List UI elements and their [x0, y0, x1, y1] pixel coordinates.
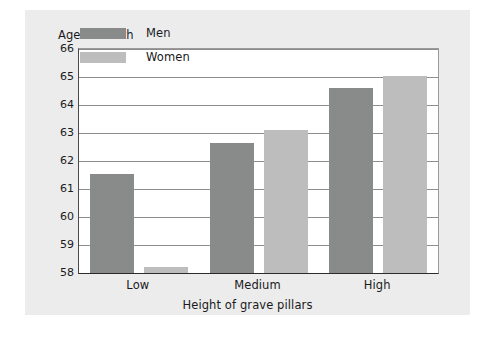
x-axis-tick-label: Medium: [234, 278, 281, 292]
y-axis-tick-label: 66: [48, 43, 74, 54]
y-axis-tick-label: 64: [48, 99, 74, 110]
legend-label-men: Men: [146, 26, 171, 40]
y-axis-tick-label: 61: [48, 183, 74, 194]
y-axis-tick-label: 59: [48, 239, 74, 250]
women-swatch-icon: [80, 52, 126, 63]
y-axis-tick-labels: 666564636261605958: [42, 48, 74, 273]
y-axis-tick-label: 63: [48, 127, 74, 138]
bar-men-low[interactable]: [90, 174, 134, 273]
bar-women-medium[interactable]: [264, 130, 308, 273]
y-axis-tick-label: 60: [48, 211, 74, 222]
x-axis-tick-label: Low: [126, 278, 149, 292]
legend-item-men[interactable]: Men: [80, 23, 190, 43]
y-axis-tick-label: 65: [48, 71, 74, 82]
legend-item-women[interactable]: Women: [80, 47, 190, 67]
y-axis-tick-label: 58: [48, 267, 74, 278]
bar-men-high[interactable]: [329, 88, 373, 273]
men-swatch-icon: [80, 28, 126, 39]
x-axis-tick-label: High: [364, 278, 391, 292]
legend-label-women: Women: [146, 50, 190, 64]
chart-figure-panel: Age at death 666564636261605958 LowMediu…: [25, 10, 470, 315]
plot-area: [78, 48, 439, 274]
x-axis-tick-labels: LowMediumHigh: [78, 278, 437, 298]
y-axis-tick-label: 62: [48, 155, 74, 166]
chart-legend: Men Women: [80, 23, 190, 71]
bar-men-medium[interactable]: [210, 143, 254, 273]
x-axis-title: Height of grave pillars: [25, 298, 470, 312]
bar-women-low[interactable]: [144, 267, 188, 273]
bar-women-high[interactable]: [383, 76, 427, 273]
